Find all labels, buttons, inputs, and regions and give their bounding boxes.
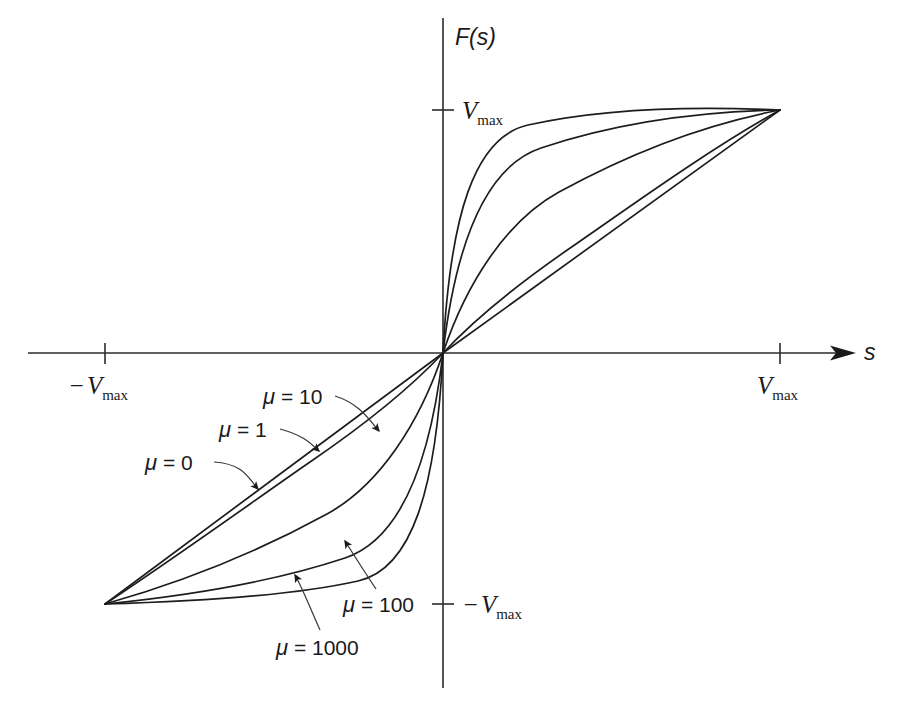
curve-label-mu-1000: μ = 1000: [275, 635, 359, 660]
x-tick-label-pos-vmax: Vmax: [757, 372, 799, 403]
mu-equation-10: = 10: [275, 385, 322, 408]
y-axis-label: F(s): [455, 24, 496, 50]
chart-canvas: F(s) s Vmax −Vmax −Vmax Vmax μ = 0: [0, 0, 902, 704]
leader-mu-1000: [295, 575, 320, 630]
mu-equation-0: = 0: [157, 451, 193, 474]
curve-label-mu-1: μ = 1: [218, 417, 267, 442]
mu-equation-1: = 1: [231, 418, 267, 441]
y-tick-pos-vmax-subscript: max: [477, 112, 503, 128]
leader-mu-0: [214, 462, 258, 489]
leader-mu-1: [280, 429, 319, 451]
mu-equation-100: = 100: [355, 593, 414, 616]
mu-symbol-1: μ: [218, 417, 231, 442]
curve-label-mu-10: μ = 10: [262, 384, 322, 409]
mu-law-companding-chart: F(s) s Vmax −Vmax −Vmax Vmax μ = 0: [0, 0, 902, 704]
mu-symbol-1000: μ: [275, 635, 288, 660]
leader-mu-10: [335, 396, 379, 431]
y-tick-neg-vmax-sign: −: [462, 591, 479, 618]
x-tick-neg-vmax-subscript: max: [102, 387, 128, 403]
mu-symbol-0: μ: [144, 450, 157, 475]
y-tick-label-neg-vmax: −Vmax: [462, 591, 522, 622]
x-tick-neg-vmax-sign: −: [68, 372, 85, 399]
mu-symbol-10: μ: [262, 384, 275, 409]
x-tick-pos-vmax-subscript: max: [772, 387, 798, 403]
leader-mu-100: [345, 541, 376, 589]
curve-label-mu-100: μ = 100: [342, 592, 414, 617]
mu-symbol-100: μ: [342, 592, 355, 617]
curve-label-mu-0: μ = 0: [144, 450, 193, 475]
x-axis-label: s: [864, 339, 876, 365]
labels-group: F(s) s Vmax −Vmax −Vmax Vmax μ = 0: [68, 24, 876, 660]
y-tick-neg-vmax-subscript: max: [496, 606, 522, 622]
mu-equation-1000: = 1000: [288, 636, 359, 659]
x-tick-label-neg-vmax: −Vmax: [68, 372, 128, 403]
y-tick-label-pos-vmax: Vmax: [462, 97, 504, 128]
